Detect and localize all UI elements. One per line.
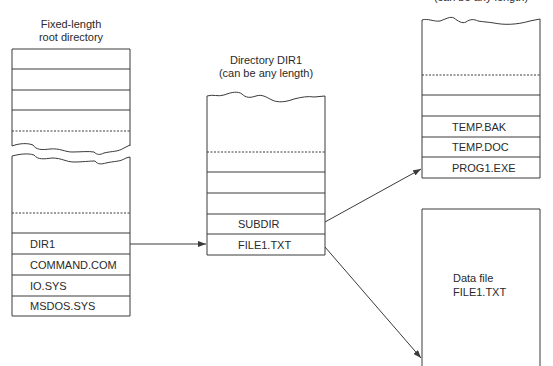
subdir-title-partial: (can be any length) — [422, 0, 540, 3]
root-entry-dir1[interactable]: DIR1 — [30, 234, 55, 254]
root-entry-io-sys[interactable]: IO.SYS — [30, 276, 67, 296]
data-file-line1: Data file — [453, 271, 506, 285]
data-file-line2: FILE1.TXT — [453, 285, 506, 299]
dir1-entry-file1-txt[interactable]: FILE1.TXT — [238, 235, 291, 255]
root-title-line1: Fixed-length — [12, 18, 130, 31]
arrow-file1-to-data-file — [325, 247, 421, 358]
root-directory-title: Fixed-length root directory — [12, 18, 130, 44]
root-entry-msdos-sys[interactable]: MSDOS.SYS — [30, 296, 95, 316]
subdir-entry-temp-bak[interactable]: TEMP.BAK — [452, 117, 506, 137]
arrow-subdir-to-subdirectory — [325, 169, 421, 222]
root-title-line2: root directory — [12, 31, 130, 44]
dir1-title: Directory DIR1 (can be any length) — [196, 54, 336, 80]
subdir-entry-temp-doc[interactable]: TEMP.DOC — [452, 137, 509, 157]
root-entry-command-com[interactable]: COMMAND.COM — [30, 255, 117, 275]
data-file-label: Data file FILE1.TXT — [453, 271, 506, 299]
subdir-title-text: (can be any length) — [422, 0, 540, 3]
dir1-entry-subdir[interactable]: SUBDIR — [238, 214, 280, 234]
root-directory-upper — [12, 49, 130, 154]
dir1-title-line2: (can be any length) — [196, 67, 336, 80]
subdir-entry-prog1-exe[interactable]: PROG1.EXE — [452, 158, 516, 178]
dir1-title-line1: Directory DIR1 — [196, 54, 336, 67]
